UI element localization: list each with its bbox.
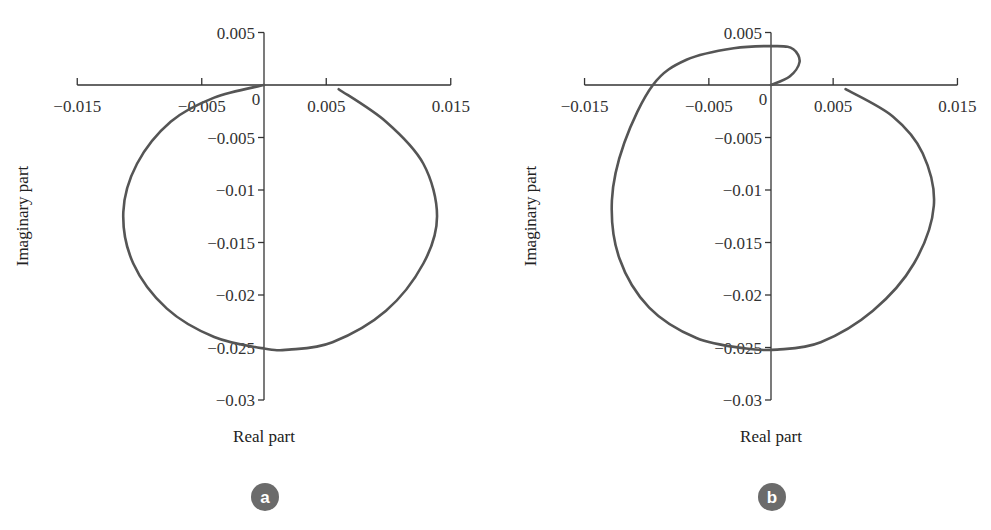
nyquist-curve — [612, 46, 934, 350]
x-tick-label: 0 — [252, 90, 261, 109]
x-tick-label: 0.015 — [432, 97, 470, 116]
x-tick-label: −0.015 — [53, 97, 101, 116]
x-tick-label: −0.015 — [561, 97, 609, 116]
y-tick-label: −0.03 — [723, 391, 762, 410]
y-tick-label: −0.02 — [723, 286, 762, 305]
y-tick-label: −0.01 — [216, 181, 255, 200]
panel-a: −0.015−0.00500.0050.0150.005−0.005−0.01−… — [13, 24, 470, 512]
y-tick-label: −0.015 — [207, 234, 255, 253]
y-axis-title: Imaginary part — [13, 165, 32, 266]
figure: −0.015−0.00500.0050.0150.005−0.005−0.01−… — [0, 0, 991, 530]
panel-badge: a — [251, 483, 279, 511]
x-tick-label: 0.005 — [307, 97, 345, 116]
x-tick-label: 0.015 — [938, 97, 976, 116]
x-tick-label: −0.005 — [685, 97, 733, 116]
panel-b: −0.015−0.00500.0050.0150.005−0.005−0.01−… — [521, 24, 977, 512]
x-axis-title: Real part — [740, 427, 802, 446]
y-tick-label: −0.01 — [723, 181, 762, 200]
badge-label: b — [767, 488, 777, 507]
x-axis-title: Real part — [233, 427, 295, 446]
y-tick-label: −0.02 — [216, 286, 255, 305]
y-tick-label: −0.03 — [216, 391, 255, 410]
badge-label: a — [260, 488, 270, 507]
y-tick-label: 0.005 — [724, 24, 762, 43]
panel-badge: b — [758, 483, 786, 511]
y-tick-label: −0.015 — [714, 234, 762, 253]
y-tick-label: 0.005 — [217, 24, 255, 43]
y-tick-label: −0.005 — [207, 129, 255, 148]
y-tick-label: −0.005 — [714, 129, 762, 148]
y-axis-title: Imaginary part — [521, 165, 540, 266]
x-tick-label: 0.005 — [814, 97, 852, 116]
x-tick-label: −0.005 — [178, 97, 226, 116]
nyquist-curve — [123, 85, 437, 350]
x-tick-label: 0 — [759, 90, 768, 109]
